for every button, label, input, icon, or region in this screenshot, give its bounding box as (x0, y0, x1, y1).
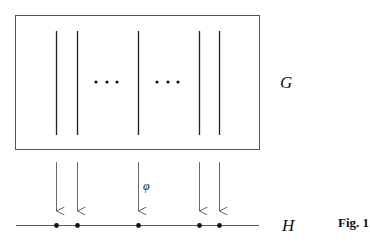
target-point-3 (136, 223, 141, 228)
group-label: G (280, 73, 292, 92)
fiber-lines (57, 31, 220, 135)
ellipsis-dot-1-3 (115, 80, 118, 83)
target-point-4 (197, 223, 202, 228)
figure-caption: Fig. 1 (338, 215, 369, 230)
map-label: φ (143, 179, 150, 193)
ellipsis-dot-1-1 (94, 80, 97, 83)
ellipsis-dot-2-1 (155, 80, 158, 83)
diagram-canvas: G φ H Fig. 1 (0, 0, 370, 242)
target-point-1 (54, 223, 59, 228)
group-box (16, 16, 260, 150)
target-point-5 (217, 223, 222, 228)
target-label: H (281, 216, 296, 235)
projection-arrows (57, 162, 220, 211)
ellipsis-dot-2-2 (166, 80, 169, 83)
target-point-2 (75, 223, 80, 228)
ellipsis-dot-1-2 (105, 80, 108, 83)
ellipsis-dots (94, 80, 179, 83)
ellipsis-dot-2-3 (176, 80, 179, 83)
